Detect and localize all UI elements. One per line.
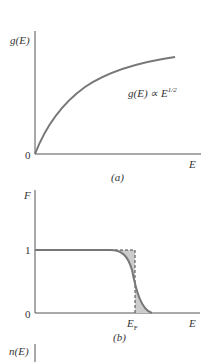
panel-a-origin: 0	[25, 150, 31, 161]
panel-b-fermi-label: EF	[127, 318, 138, 332]
diagram-canvas	[0, 0, 209, 362]
fermi-E: E	[127, 317, 134, 329]
fermi-sub: F	[134, 324, 138, 332]
panel-a-sqrt-curve	[35, 57, 175, 154]
panel-a-caption: (a)	[111, 172, 124, 183]
panel-b-caption: (b)	[113, 332, 126, 343]
panel-b-y-label: F	[24, 190, 31, 201]
panel-b-tick-one: 1	[25, 245, 31, 256]
panel-b-x-label: E	[189, 318, 196, 329]
panel-a-x-label: E	[189, 159, 196, 170]
panel-b-shade-lower	[135, 285, 152, 313]
panel-b-origin: 0	[25, 309, 31, 320]
panel-a-y-label: g(E)	[10, 35, 30, 46]
panel-c-y-label: n(E)	[9, 346, 29, 357]
panel-a-formula: g(E) ∝ E1/2	[128, 87, 177, 99]
formula-base: g(E) ∝ E	[128, 87, 168, 99]
formula-exponent: 1/2	[168, 86, 177, 94]
